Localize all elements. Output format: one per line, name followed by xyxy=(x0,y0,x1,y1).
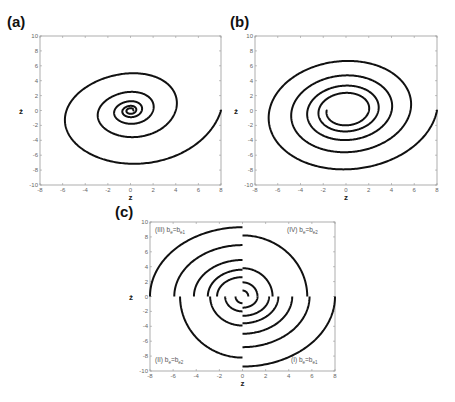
x-tick-label: 2 xyxy=(367,187,371,193)
x-tick-label: -6 xyxy=(170,373,176,379)
y-tick-label: 2 xyxy=(250,93,254,99)
x-tick-label: -8 xyxy=(252,187,258,193)
x-axis-label: z xyxy=(344,193,348,202)
region-annotation: (IV) be=be2 xyxy=(287,226,318,235)
spiral-trajectory xyxy=(269,61,437,169)
y-tick-label: -2 xyxy=(248,122,254,128)
x-axis-label: z xyxy=(129,193,133,202)
y-tick-label: -8 xyxy=(143,353,149,359)
x-tick-label: 4 xyxy=(287,373,291,379)
x-tick-label: 2 xyxy=(151,187,155,193)
y-tick-label: 8 xyxy=(145,234,149,240)
y-tick-label: 4 xyxy=(250,78,254,84)
y-tick-label: 6 xyxy=(250,63,254,69)
y-tick-label: 6 xyxy=(145,249,149,255)
y-tick-label: 8 xyxy=(35,48,39,54)
y-tick-label: -10 xyxy=(29,182,38,188)
y-tick-label: 10 xyxy=(246,33,253,39)
y-tick-label: -2 xyxy=(143,308,149,314)
y-tick-label: 10 xyxy=(141,219,148,225)
y-tick-label: 8 xyxy=(250,48,254,54)
x-tick-label: 4 xyxy=(390,187,394,193)
y-tick-label: -10 xyxy=(244,182,253,188)
y-tick-label: -6 xyxy=(248,152,254,158)
y-tick-label: 10 xyxy=(31,33,38,39)
x-tick-label: 6 xyxy=(310,373,314,379)
y-axis-label: ż xyxy=(234,107,238,116)
x-tick-label: 4 xyxy=(174,187,178,193)
x-tick-label: -4 xyxy=(83,187,89,193)
y-tick-label: 2 xyxy=(35,93,39,99)
y-tick-label: 2 xyxy=(145,279,149,285)
y-tick-label: 0 xyxy=(250,108,254,114)
x-tick-label: 8 xyxy=(435,187,439,193)
x-tick-label: 8 xyxy=(333,373,337,379)
y-tick-label: 4 xyxy=(145,264,149,270)
arc-quadrant-II xyxy=(236,297,243,304)
x-tick-label: -2 xyxy=(105,187,111,193)
region-annotation: (III) be=be1 xyxy=(155,226,186,235)
arc-quadrant-IV xyxy=(243,291,249,297)
region-annotation: (II) be=be2 xyxy=(155,356,184,365)
y-tick-label: -4 xyxy=(248,137,254,143)
y-tick-label: 0 xyxy=(145,294,149,300)
y-tick-label: -4 xyxy=(143,323,149,329)
x-axis-label: z xyxy=(241,379,245,388)
y-tick-label: -6 xyxy=(33,152,39,158)
y-tick-label: -4 xyxy=(33,137,39,143)
y-tick-label: -2 xyxy=(33,122,39,128)
x-tick-label: 6 xyxy=(197,187,201,193)
y-tick-label: 4 xyxy=(35,78,39,84)
y-tick-label: -10 xyxy=(139,368,148,374)
arc-quadrant-IV xyxy=(243,282,258,296)
x-tick-label: -4 xyxy=(298,187,304,193)
x-tick-label: -8 xyxy=(37,187,43,193)
x-tick-label: 8 xyxy=(219,187,223,193)
axes-a: -8-6-4-202468-10-8-6-4-20246810zż xyxy=(19,33,223,202)
figure-canvas: -8-6-4-202468-10-8-6-4-20246810zż-8-6-4-… xyxy=(0,0,455,402)
y-tick-label: -6 xyxy=(143,338,149,344)
x-tick-label: -2 xyxy=(321,187,327,193)
axes-c: -8-6-4-202468-10-8-6-4-20246810zż(III) b… xyxy=(129,219,337,388)
x-tick-label: -4 xyxy=(194,373,200,379)
y-tick-label: 6 xyxy=(35,63,39,69)
arc-quadrant-I xyxy=(243,297,258,308)
x-tick-label: -6 xyxy=(275,187,281,193)
x-tick-label: -6 xyxy=(60,187,66,193)
region-annotation: (I) be=be1 xyxy=(291,356,318,365)
y-axis-label: ż xyxy=(19,107,23,116)
arc-quadrant-II xyxy=(225,297,242,312)
x-tick-label: -2 xyxy=(217,373,223,379)
y-tick-label: -8 xyxy=(33,167,39,173)
y-axis-label: ż xyxy=(129,293,133,302)
y-tick-label: 0 xyxy=(35,108,39,114)
y-tick-label: -8 xyxy=(248,167,254,173)
spiral-trajectory xyxy=(65,73,221,164)
arc-quadrant-IV xyxy=(243,235,308,296)
arc-quadrant-I xyxy=(243,297,270,316)
arc-quadrant-III xyxy=(217,277,242,296)
x-tick-label: -8 xyxy=(147,373,153,379)
x-tick-label: 2 xyxy=(264,373,268,379)
x-tick-label: 6 xyxy=(413,187,417,193)
axes-b: -8-6-4-202468-10-8-6-4-20246810zż xyxy=(234,33,439,202)
